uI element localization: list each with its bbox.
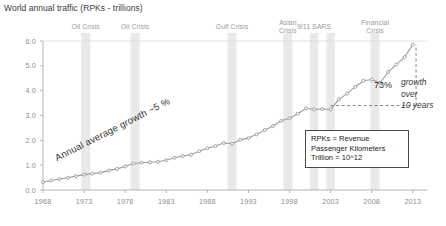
data-point-marker — [214, 145, 217, 148]
data-point-marker — [198, 150, 201, 153]
crisis-band — [227, 33, 236, 190]
data-point-marker — [272, 124, 275, 127]
crisis-band — [81, 33, 90, 190]
data-point-marker — [247, 137, 250, 140]
data-point-marker — [83, 173, 86, 176]
data-point-marker — [263, 128, 266, 131]
data-point-marker — [329, 108, 332, 111]
data-point-marker — [231, 142, 234, 145]
data-point-marker — [280, 119, 283, 122]
x-axis-tick-label: 2013 — [398, 197, 428, 206]
data-point-marker — [58, 178, 61, 181]
y-axis-tick-label: 6.0 — [14, 37, 36, 46]
x-axis-tick-label: 1993 — [233, 197, 263, 206]
x-axis-tick-label: 2008 — [357, 197, 387, 206]
y-axis-tick-label: 0.0 — [14, 186, 36, 195]
y-axis-tick-label: 3.0 — [14, 111, 36, 120]
data-point-marker — [165, 159, 168, 162]
crisis-band — [283, 33, 292, 190]
data-point-marker — [411, 43, 414, 46]
x-axis-tick-label: 1968 — [28, 197, 58, 206]
data-point-marker — [124, 165, 127, 168]
data-point-marker — [181, 154, 184, 157]
x-axis-tick-label: 1988 — [192, 197, 222, 206]
data-point-marker — [140, 161, 143, 164]
growth-period-description: growth over 10 years — [401, 77, 434, 112]
x-axis-tick-label: 2003 — [316, 197, 346, 206]
data-point-marker — [346, 92, 349, 95]
crisis-band-label: Financial Crisis — [347, 19, 403, 35]
data-point-marker — [91, 172, 94, 175]
data-point-marker — [296, 112, 299, 115]
data-point-marker — [239, 138, 242, 141]
data-point-marker — [313, 108, 316, 111]
data-point-marker — [157, 160, 160, 163]
data-point-marker — [42, 181, 45, 184]
crisis-band-label: Gulf Crisis — [204, 23, 260, 31]
y-axis-tick-label: 1.0 — [14, 161, 36, 170]
data-point-marker — [189, 153, 192, 156]
x-axis-tick-label: 1978 — [110, 197, 140, 206]
data-point-marker — [107, 169, 110, 172]
data-point-marker — [337, 98, 340, 101]
data-point-marker — [115, 167, 118, 170]
data-point-marker — [74, 175, 77, 178]
data-point-marker — [395, 63, 398, 66]
data-point-marker — [99, 171, 102, 174]
data-point-marker — [354, 85, 357, 88]
data-point-marker — [403, 56, 406, 59]
data-point-marker — [304, 107, 307, 110]
data-point-marker — [288, 117, 291, 120]
crisis-band-label: 9/11 SARS — [286, 23, 342, 31]
y-axis-tick-label: 5.0 — [14, 61, 36, 70]
y-axis-tick-label: 2.0 — [14, 136, 36, 145]
x-axis-tick-label: 1998 — [275, 197, 305, 206]
y-axis-tick-label: 4.0 — [14, 86, 36, 95]
data-point-marker — [50, 179, 53, 182]
x-axis-tick-label: 1983 — [151, 197, 181, 206]
data-point-marker — [173, 156, 176, 159]
data-point-marker — [222, 142, 225, 145]
data-point-marker — [321, 108, 324, 111]
data-point-marker — [206, 147, 209, 150]
definitions-note-box: RPKs = Revenue Passenger Kilometers Tril… — [305, 130, 409, 168]
data-point-marker — [370, 78, 373, 81]
data-point-marker — [148, 161, 151, 164]
data-point-marker — [132, 162, 135, 165]
crisis-band-label: Oil Crisis — [107, 23, 163, 31]
x-axis-tick-label: 1973 — [69, 197, 99, 206]
data-point-marker — [362, 79, 365, 82]
data-point-marker — [387, 71, 390, 74]
crisis-band-label: Oil Crisis — [58, 23, 114, 31]
growth-percent-callout: 73% — [374, 80, 392, 90]
data-point-marker — [255, 133, 258, 136]
chart-screenshot: World annual traffic (RPKs - trillions) … — [0, 0, 446, 226]
data-point-marker — [66, 176, 69, 179]
